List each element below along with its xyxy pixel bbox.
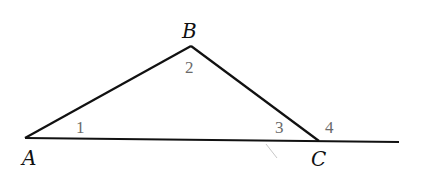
vertex-label-a: A	[20, 146, 36, 170]
angle-label-4: 4	[325, 118, 334, 137]
diagram-canvas: B A C 1 2 3 4	[0, 0, 424, 173]
angle-label-1: 1	[76, 118, 85, 137]
side-bc	[191, 46, 319, 141]
scan-mark	[266, 144, 277, 158]
vertex-label-b: B	[181, 19, 197, 43]
side-ac-extended	[25, 138, 399, 142]
vertex-label-c: C	[311, 147, 326, 171]
triangle-diagram: B A C 1 2 3 4	[0, 0, 424, 173]
angle-label-3: 3	[275, 118, 284, 137]
side-ab	[25, 46, 191, 138]
angle-label-2: 2	[185, 58, 194, 77]
